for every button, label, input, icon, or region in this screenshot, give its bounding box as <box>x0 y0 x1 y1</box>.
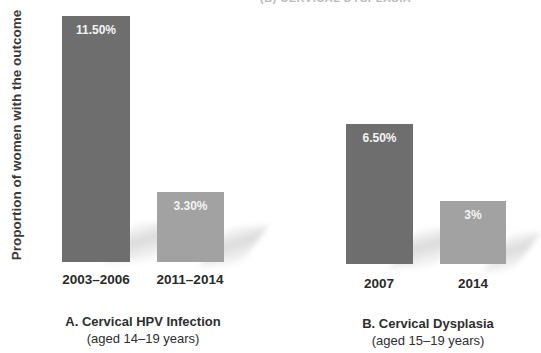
bar-value-label: 6.50% <box>346 131 413 145</box>
bar-value-label: 11.50% <box>62 23 130 37</box>
y-axis-label: Proportion of women with the outcome <box>9 10 24 261</box>
bar-value-label: 3% <box>440 208 506 222</box>
bar-a-2011-2014: 3.30% <box>157 192 224 262</box>
x-tick-2014: 2014 <box>418 276 528 291</box>
panel-a-title: A. Cervical HPV Infection (aged 14–19 ye… <box>33 313 253 347</box>
bar-value-label: 3.30% <box>157 199 224 213</box>
bar-a-2003-2006: 11.50% <box>62 16 130 262</box>
cut-off-header: (B) CERVICAL DYSPLASIA <box>260 0 411 4</box>
panel-b-title: B. Cervical Dysplasia (aged 15–19 years) <box>318 315 538 349</box>
panel-a-title-text: A. Cervical HPV Infection <box>33 313 253 330</box>
panel-a-subtitle: (aged 14–19 years) <box>33 330 253 347</box>
panel-b-title-text: B. Cervical Dysplasia <box>318 315 538 332</box>
panel-b-subtitle: (aged 15–19 years) <box>318 332 538 349</box>
bar-b-2014: 3% <box>440 201 506 264</box>
x-tick-2011-2014: 2011–2014 <box>135 272 245 287</box>
bar-b-2007: 6.50% <box>346 124 413 264</box>
